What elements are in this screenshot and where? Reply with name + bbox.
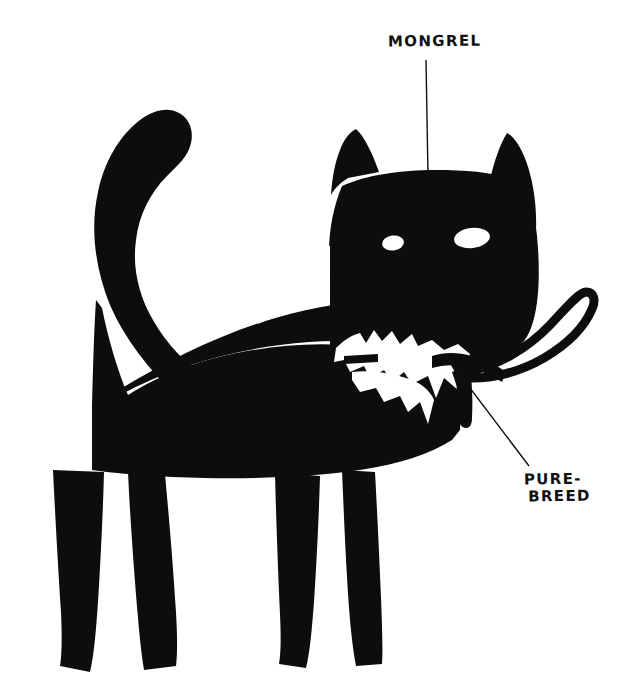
annotation-label-purebreed-line2: BREED <box>528 487 591 505</box>
cat-illustration <box>0 0 618 693</box>
illustration-canvas: MONGREL PURE-BREED <box>0 0 618 693</box>
annotation-label-purebreed: PURE-BREED <box>524 471 591 506</box>
annotation-label-mongrel: MONGREL <box>388 33 482 51</box>
annotation-label-purebreed-line1: PURE- <box>524 470 582 489</box>
